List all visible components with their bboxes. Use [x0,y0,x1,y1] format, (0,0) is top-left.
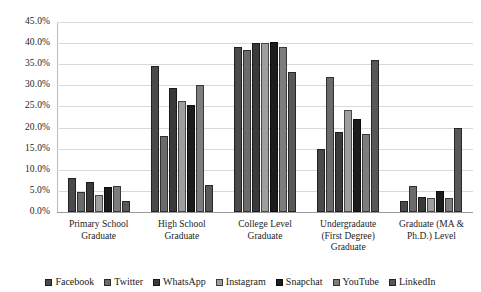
legend-label: Facebook [55,277,94,287]
bar-twitter[interactable] [409,186,417,212]
grouped-bar-chart: 45.0%40.0%35.0%30.0%25.0%20.0%15.0%10.0%… [0,0,481,292]
axis-baseline [57,212,473,213]
bar-whatsapp[interactable] [418,197,426,212]
plot-wrapper: 45.0%40.0%35.0%30.0%25.0%20.0%15.0%10.0%… [0,0,481,216]
y-axis-tick-label: 20.0% [25,123,50,133]
legend-item-youtube[interactable]: YouTube [333,277,379,287]
x-axis-category-label: Graduate (MA & Ph.D.) Level [390,215,473,271]
plot-area [57,22,473,212]
bar-group [307,22,390,212]
y-axis: 45.0%40.0%35.0%30.0%25.0%20.0%15.0%10.0%… [0,0,54,216]
x-axis-category-label: College Level Graduate [223,215,306,271]
bar-snapchat[interactable] [436,191,444,212]
bar-groups [57,22,473,212]
bar-whatsapp[interactable] [335,132,343,212]
bar-youtube[interactable] [362,134,370,212]
y-axis-tick-label: 25.0% [25,102,50,112]
bar-linkedin[interactable] [122,201,130,212]
bar-whatsapp[interactable] [169,88,177,212]
legend-item-twitter[interactable]: Twitter [104,277,143,287]
y-axis-tick-label: 5.0% [30,186,50,196]
bar-twitter[interactable] [326,77,334,212]
bar-linkedin[interactable] [371,60,379,212]
bar-snapchat[interactable] [187,105,195,212]
x-axis-labels: Primary School GraduateHigh School Gradu… [57,215,473,271]
legend-label: Snapchat [286,277,323,287]
bar-instagram[interactable] [344,110,352,212]
y-axis-tick-label: 35.0% [25,59,50,69]
bar-group [223,22,306,212]
bar-snapchat[interactable] [270,42,278,212]
legend-item-instagram[interactable]: Instagram [216,277,266,287]
legend-item-facebook[interactable]: Facebook [45,277,94,287]
legend-swatch-icon [389,279,396,286]
chart-legend: FacebookTwitterWhatsAppInstagramSnapchat… [0,272,481,292]
bar-linkedin[interactable] [454,128,462,212]
bar-facebook[interactable] [68,178,76,212]
legend-label: Instagram [226,277,266,287]
bar-instagram[interactable] [178,101,186,212]
bar-linkedin[interactable] [205,185,213,212]
x-axis-category-label: Primary School Graduate [57,215,140,271]
bar-snapchat[interactable] [104,187,112,212]
bar-instagram[interactable] [261,43,269,212]
bar-facebook[interactable] [151,66,159,212]
legend-item-whatsapp[interactable]: WhatsApp [153,277,206,287]
bar-facebook[interactable] [317,149,325,212]
legend-swatch-icon [333,279,340,286]
bar-twitter[interactable] [77,192,85,212]
legend-item-snapchat[interactable]: Snapchat [276,277,323,287]
legend-swatch-icon [216,279,223,286]
bar-youtube[interactable] [279,47,287,212]
legend-swatch-icon [276,279,283,286]
bar-instagram[interactable] [427,198,435,212]
bar-facebook[interactable] [400,201,408,212]
bar-twitter[interactable] [243,50,251,212]
bar-twitter[interactable] [160,136,168,212]
bar-youtube[interactable] [445,198,453,212]
x-axis-category-label: Undergradaute (First Degree) Graduate [307,215,390,271]
legend-label: YouTube [343,277,379,287]
bar-whatsapp[interactable] [86,182,94,212]
y-axis-tick-label: 15.0% [25,144,50,154]
bar-facebook[interactable] [234,47,242,212]
bar-group [390,22,473,212]
bar-group [140,22,223,212]
bar-youtube[interactable] [196,85,204,212]
bar-snapchat[interactable] [353,119,361,212]
legend-swatch-icon [153,279,160,286]
bar-youtube[interactable] [113,186,121,212]
x-axis-category-label: High School Graduate [140,215,223,271]
bar-whatsapp[interactable] [252,43,260,212]
legend-label: WhatsApp [163,277,206,287]
bar-linkedin[interactable] [288,72,296,212]
legend-swatch-icon [45,279,52,286]
legend-label: Twitter [114,277,143,287]
bar-group [57,22,140,212]
y-axis-tick-label: 10.0% [25,165,50,175]
y-axis-tick-label: 30.0% [25,81,50,91]
y-axis-tick-label: 45.0% [25,17,50,27]
bar-instagram[interactable] [95,195,103,212]
y-axis-tick-label: 40.0% [25,38,50,48]
legend-swatch-icon [104,279,111,286]
y-axis-tick-label: 0.0% [30,207,50,217]
legend-item-linkedin[interactable]: LinkedIn [389,277,436,287]
legend-label: LinkedIn [399,277,436,287]
